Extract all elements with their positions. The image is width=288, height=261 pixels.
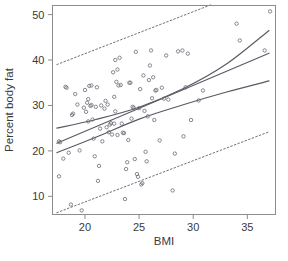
data-point (151, 76, 154, 79)
data-point (263, 49, 266, 52)
data-point (123, 197, 126, 200)
series-confidence-band-upper (57, 30, 269, 128)
data-point (118, 56, 121, 59)
data-point (69, 203, 72, 206)
data-point (62, 157, 65, 160)
data-point (133, 157, 136, 160)
data-point (158, 139, 161, 142)
data-point (95, 86, 98, 89)
data-point (110, 133, 113, 136)
data-point (201, 89, 204, 92)
data-point (93, 155, 96, 158)
data-point (148, 64, 151, 67)
data-point (186, 52, 189, 55)
x-tick-label: 25 (133, 221, 145, 233)
data-point (83, 88, 86, 91)
axis-labels: 202530351020304050BMIPercent body fat (3, 9, 253, 247)
data-point (160, 86, 163, 89)
data-point (57, 175, 60, 178)
data-point (130, 117, 133, 120)
data-point (67, 151, 70, 154)
data-point (150, 96, 153, 99)
data-point (106, 103, 109, 106)
x-tick-label: 30 (187, 221, 199, 233)
data-point (189, 118, 192, 121)
data-point (116, 68, 119, 71)
data-point (143, 109, 146, 112)
data-point (76, 103, 79, 106)
data-point (164, 54, 167, 57)
data-point (127, 138, 130, 141)
data-point (167, 98, 170, 101)
data-point (105, 126, 108, 129)
data-point (138, 87, 141, 90)
data-point (173, 152, 176, 155)
series-prediction-band-lower (57, 132, 269, 213)
series-prediction-band-upper (57, 4, 213, 64)
series-layer (57, 4, 269, 213)
series-confidence-band-lower (57, 81, 269, 153)
data-point (85, 101, 88, 104)
data-point (114, 110, 117, 113)
data-point (124, 167, 127, 170)
data-point (115, 80, 118, 83)
data-point (113, 122, 116, 125)
plot-canvas: 202530351020304050BMIPercent body fat (0, 0, 288, 261)
data-point (125, 161, 128, 164)
data-point (176, 50, 179, 53)
data-point (74, 92, 77, 95)
data-point (87, 97, 90, 100)
data-point (145, 160, 148, 163)
data-point (113, 95, 116, 98)
y-axis-title: Percent body fat (3, 67, 15, 152)
data-point (104, 99, 107, 102)
y-tick-label: 10 (32, 190, 44, 202)
data-point (235, 22, 238, 25)
data-point (101, 140, 104, 143)
axis-ticks (48, 15, 247, 219)
data-point (134, 50, 137, 53)
data-point (80, 209, 83, 212)
data-point (111, 71, 114, 74)
data-point (149, 49, 152, 52)
x-axis-title: BMI (154, 235, 174, 247)
data-point (84, 110, 87, 113)
data-point (119, 83, 122, 86)
data-point (153, 118, 156, 121)
data-point (82, 106, 85, 109)
x-tick-label: 20 (79, 221, 91, 233)
data-point (142, 74, 145, 77)
y-tick-label: 50 (32, 9, 44, 21)
data-point (116, 133, 119, 136)
data-point (120, 122, 123, 125)
y-tick-label: 40 (32, 54, 44, 66)
x-tick-label: 35 (241, 221, 253, 233)
data-point (182, 135, 185, 138)
data-point (181, 49, 184, 52)
y-tick-label: 20 (32, 145, 44, 157)
data-point (103, 107, 106, 110)
data-point (90, 84, 93, 87)
data-point (100, 104, 103, 107)
data-point (171, 189, 174, 192)
data-point (268, 10, 271, 13)
data-point (98, 127, 101, 130)
y-tick-label: 30 (32, 99, 44, 111)
data-point (144, 150, 147, 153)
data-point (238, 39, 241, 42)
scatter-plot-figure: 202530351020304050BMIPercent body fat (0, 0, 288, 261)
data-point (94, 105, 97, 108)
data-point (78, 149, 81, 152)
data-point (97, 164, 100, 167)
data-point (147, 78, 150, 81)
data-point (96, 179, 99, 182)
data-point (114, 58, 117, 61)
